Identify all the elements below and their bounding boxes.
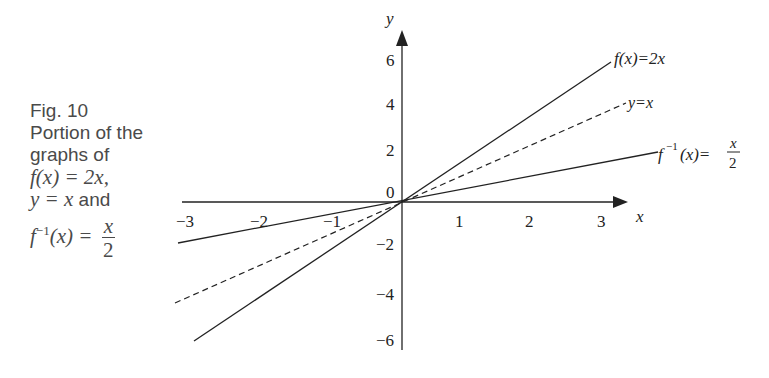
y-tick: −2 (376, 235, 394, 254)
label-f-2x: f(x)=2x (614, 49, 666, 68)
x-tick: 3 (597, 212, 606, 231)
svg-text:(x)=: (x)= (680, 145, 710, 164)
y-axis-label: y (384, 9, 394, 28)
label-f-inverse: f −1 (x)= x 2 (658, 135, 740, 171)
svg-text:2: 2 (729, 155, 737, 171)
x-tick: 1 (455, 212, 464, 231)
label-y-equals-x: y=x (626, 94, 653, 112)
svg-text:x: x (729, 135, 737, 151)
x-axis-arrow-icon (613, 196, 628, 208)
x-tick: −2 (250, 212, 268, 231)
x-tick: −1 (323, 212, 341, 231)
x-axis-label: x (635, 207, 644, 226)
x-tick: 2 (525, 212, 534, 231)
y-tick: 2 (386, 141, 395, 160)
y-axis-arrow-icon (396, 30, 408, 46)
graph: y x −3 −2 −1 1 2 3 6 4 2 0 −2 −4 −6 f(x)… (0, 0, 769, 378)
y-tick: −4 (376, 285, 395, 304)
y-tick: 4 (386, 95, 395, 114)
y-tick: 6 (386, 51, 395, 70)
svg-text:f: f (658, 145, 665, 164)
svg-text:−1: −1 (666, 140, 678, 152)
x-tick: −3 (176, 212, 194, 231)
y-tick: 0 (386, 183, 395, 202)
y-tick: −6 (376, 331, 394, 350)
